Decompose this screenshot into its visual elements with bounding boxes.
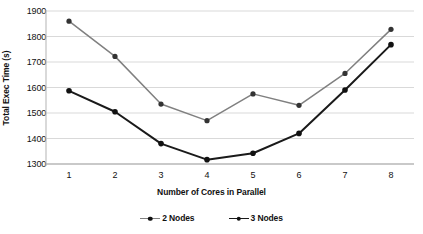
- data-point: [388, 42, 394, 48]
- grid-lines: [46, 11, 414, 164]
- x-axis-tick-label: 6: [296, 170, 301, 180]
- legend-swatch-icon: [140, 218, 160, 219]
- data-point: [342, 71, 347, 76]
- data-point: [296, 103, 301, 108]
- x-axis-tick-labels: 12345678: [0, 170, 423, 184]
- data-point: [342, 87, 348, 93]
- chart-legend: 2 Nodes3 Nodes: [0, 213, 423, 223]
- x-axis-tick-label: 3: [158, 170, 163, 180]
- chart-container: Total Exec Time (s) 13001400150016001700…: [0, 0, 423, 234]
- data-point: [112, 54, 117, 59]
- x-axis-tick-label: 7: [342, 170, 347, 180]
- data-point: [388, 27, 393, 32]
- x-axis-tick-label: 4: [204, 170, 209, 180]
- data-point: [66, 19, 71, 24]
- legend-item-2-nodes[interactable]: 2 Nodes: [140, 213, 194, 223]
- x-axis-tick-label: 1: [66, 170, 71, 180]
- legend-label: 3 Nodes: [251, 213, 283, 223]
- data-point: [66, 88, 72, 94]
- legend-marker-icon: [148, 216, 153, 221]
- data-point: [250, 150, 256, 156]
- data-point: [204, 157, 210, 163]
- data-point: [250, 91, 255, 96]
- data-point: [112, 109, 118, 115]
- plot-area: [0, 0, 423, 234]
- x-axis-tick-label: 5: [250, 170, 255, 180]
- data-point: [204, 118, 209, 123]
- legend-label: 2 Nodes: [162, 213, 194, 223]
- legend-marker-icon: [236, 216, 241, 221]
- series-3-nodes: [66, 42, 394, 163]
- data-point: [296, 131, 302, 137]
- x-axis-title: Number of Cores in Parallel: [0, 187, 423, 197]
- data-point: [158, 141, 164, 147]
- x-axis-title-text: Number of Cores in Parallel: [157, 187, 266, 197]
- legend-item-3-nodes[interactable]: 3 Nodes: [229, 213, 283, 223]
- data-point: [158, 101, 163, 106]
- legend-swatch-icon: [229, 218, 249, 219]
- x-axis-tick-label: 8: [388, 170, 393, 180]
- x-axis-tick-label: 2: [112, 170, 117, 180]
- series-2-nodes: [66, 19, 393, 124]
